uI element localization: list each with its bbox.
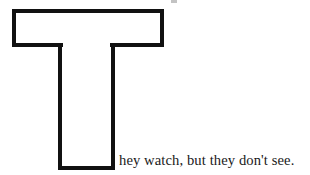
- sentence-remainder-text: hey watch, but they don't see.: [119, 150, 294, 170]
- dropcap-stem-shape: [60, 45, 113, 168]
- body-text-line: hey watch, but they don't see.: [119, 150, 310, 172]
- dropcap-letter-t: [0, 0, 180, 175]
- dropcap-bar-shape: [14, 11, 162, 45]
- document-page: hey watch, but they don't see.: [0, 0, 310, 175]
- dropcap-junction-mask: [63, 41, 110, 50]
- letter-t-outline-icon: [0, 0, 180, 175]
